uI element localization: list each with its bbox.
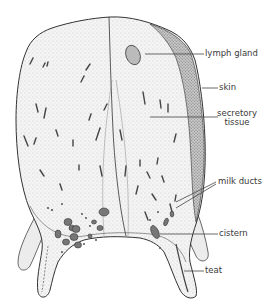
label-lymph-gland: lymph gland [205,49,258,58]
label-tissue-line: tissue [216,118,258,127]
label-milk-ducts: milk ducts [218,177,262,186]
udder-illustration [0,0,273,308]
label-teat: teat [205,266,222,275]
label-skin: skin [219,83,236,92]
label-secretory-tissue: secretory tissue [216,109,258,127]
udder-diagram: lymph gland skin secretory tissue milk d… [0,0,273,308]
label-cistern: cistern [219,229,248,238]
